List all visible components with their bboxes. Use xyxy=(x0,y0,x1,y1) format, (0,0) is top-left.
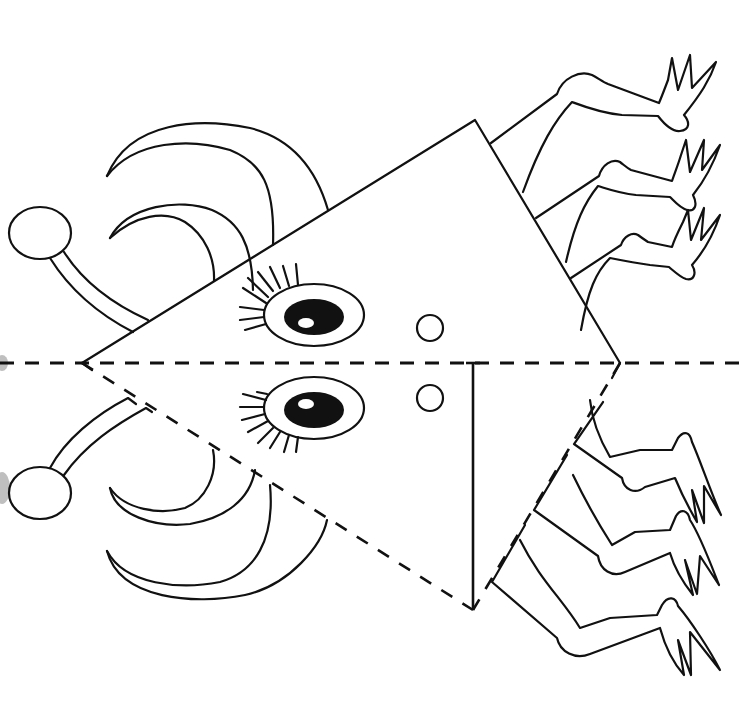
antenna-ball xyxy=(9,467,71,519)
leg-1 xyxy=(574,400,721,523)
upper-half xyxy=(9,55,720,378)
leg-2 xyxy=(534,455,719,595)
horn-curl-inner-2 xyxy=(110,450,214,511)
lower-antenna xyxy=(9,398,152,519)
lower-nostril xyxy=(417,385,443,411)
eye-glint xyxy=(298,318,314,328)
horn-curl-outer-1 xyxy=(107,520,327,599)
lower-eye xyxy=(240,377,364,452)
leg-2 xyxy=(536,140,720,262)
antenna-stalk-edge xyxy=(64,252,148,320)
upper-eye xyxy=(240,264,364,346)
lower-half xyxy=(9,363,721,675)
lower-legs xyxy=(492,400,721,675)
horn-curl-inner-1 xyxy=(107,143,273,245)
antenna-ball xyxy=(9,207,71,259)
eye-glint xyxy=(298,399,314,409)
antenna-stalk-edge xyxy=(64,408,152,475)
horn-curl-inner-2 xyxy=(110,216,214,281)
eye-pupil xyxy=(284,392,344,428)
antenna-stalk-edge xyxy=(50,398,136,468)
upper-nostril xyxy=(417,315,443,341)
horn-curl-outer-2 xyxy=(110,470,255,525)
antenna-stalk-edge xyxy=(50,258,133,332)
horn-curl-outer-2 xyxy=(110,205,253,290)
leg-1 xyxy=(491,55,716,192)
horn-curl-outer-1 xyxy=(107,123,328,210)
leg-3 xyxy=(492,525,720,675)
upper-horn-curls xyxy=(107,123,328,290)
eye-pupil xyxy=(284,299,344,335)
leg-3 xyxy=(571,208,720,330)
lower-horn-curls xyxy=(107,450,327,599)
horn-curl-inner-1 xyxy=(107,485,271,585)
bug-craft-drawing xyxy=(0,0,740,724)
lower-right-edge-dashed xyxy=(473,363,620,610)
upper-legs xyxy=(491,55,720,330)
